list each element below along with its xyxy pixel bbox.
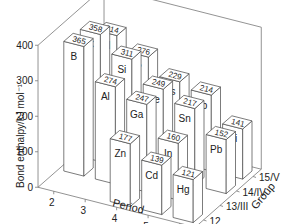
bar-element-label: B — [71, 51, 78, 62]
bar-pb: 152Pb — [206, 126, 235, 193]
bar-element-label: Cd — [145, 170, 158, 181]
bar-element-label: Si — [117, 64, 126, 75]
bars-layer: 314N276P229As214Sb141Bi358C311Si249Ge217… — [64, 21, 252, 222]
y-tick-label: 0 — [27, 182, 33, 193]
period-tick-label: 3 — [80, 205, 86, 216]
bar-b: 365B — [64, 33, 93, 176]
period-tick-label: 2 — [49, 197, 55, 208]
period-tick-label: 4 — [112, 213, 118, 224]
y-axis-label: Bond enthalpy/kJ mol⁻¹ — [15, 83, 26, 188]
bar-cd: 139Cd — [142, 152, 171, 215]
group-tick-label: 12 — [210, 216, 222, 224]
bar-element-label: Sn — [179, 113, 191, 124]
bond-enthalpy-3d-bar-chart: 0100200300400234561213/III14/IV15/V 314N… — [0, 0, 291, 224]
bar-zn: 177Zn — [110, 131, 139, 207]
bar-hg: 121Hg — [173, 166, 202, 222]
bar-element-label: Ga — [130, 109, 144, 120]
bar-element-label: Al — [101, 91, 110, 102]
bar-element-label: Zn — [114, 148, 126, 159]
y-tick-label: 400 — [16, 40, 33, 51]
bar-element-label: Hg — [177, 184, 190, 195]
bar-element-label: Pb — [210, 144, 223, 155]
group-tick-label: 13/III — [226, 201, 248, 212]
period-tick-label: 5 — [143, 221, 149, 224]
